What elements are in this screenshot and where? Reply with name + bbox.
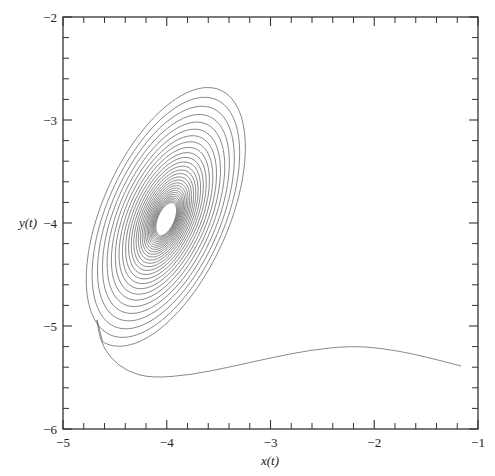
y-tick-label: −5	[43, 319, 57, 334]
x-tick-label: −4	[160, 435, 174, 450]
x-tick-label: −5	[56, 435, 70, 450]
y-tick-label: −2	[43, 10, 57, 25]
x-axis-label: x(t)	[260, 453, 279, 468]
y-tick-label: −3	[43, 113, 57, 128]
y-tick-label: −4	[43, 216, 57, 231]
x-tick-label: −2	[367, 435, 381, 450]
y-tick-label: −6	[43, 422, 57, 437]
x-tick-label: −1	[471, 435, 485, 450]
y-axis-label: y(t)	[17, 215, 37, 230]
phase-portrait-chart: −5−4−3−2−1−6−5−4−3−2 x(t) y(t)	[0, 0, 495, 476]
plot-frame	[63, 17, 478, 429]
axis-ticks	[63, 17, 478, 429]
trajectory-line	[86, 88, 461, 377]
x-tick-label: −3	[264, 435, 278, 450]
tick-labels: −5−4−3−2−1−6−5−4−3−2	[43, 10, 485, 450]
